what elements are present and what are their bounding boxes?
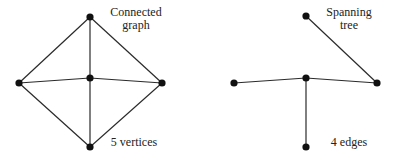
edge-left-bottom xyxy=(19,83,90,147)
edge-left-center xyxy=(234,78,306,83)
vertex-center xyxy=(302,74,309,81)
vertex-center xyxy=(86,74,93,81)
vertex-left xyxy=(15,79,22,86)
vertex-bottom xyxy=(302,143,309,150)
connected-graph-caption: 5 vertices xyxy=(104,136,164,149)
title-line-2: graph xyxy=(104,19,168,32)
edge-center-right xyxy=(306,78,377,83)
vertex-left xyxy=(230,79,237,86)
edge-left-center xyxy=(19,78,90,83)
connected-graph xyxy=(15,13,165,150)
title-line-2: tree xyxy=(320,19,378,32)
vertex-top xyxy=(86,13,93,20)
edge-center-right xyxy=(90,78,162,83)
spanning-tree xyxy=(230,12,380,150)
vertex-bottom xyxy=(86,143,93,150)
vertex-right xyxy=(158,79,165,86)
edge-top-left xyxy=(19,17,90,83)
connected-graph-title: Connected graph xyxy=(104,6,168,32)
spanning-tree-caption: 4 edges xyxy=(324,136,374,149)
spanning-tree-title: Spanning tree xyxy=(320,6,378,32)
vertex-right xyxy=(373,79,380,86)
vertex-top xyxy=(302,12,309,19)
